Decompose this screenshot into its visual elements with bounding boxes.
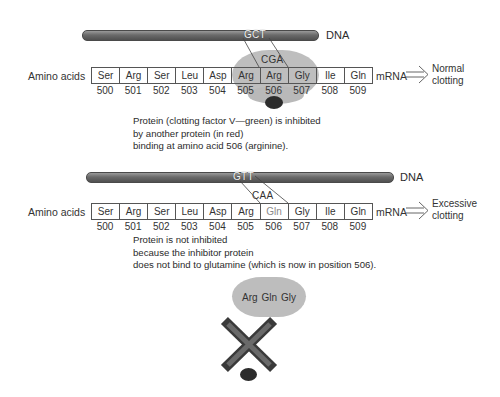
codon-connector-line — [240, 181, 260, 203]
diagram-line-art — [0, 0, 500, 397]
cross-mark-icon — [228, 324, 270, 365]
codon-connector-line — [243, 38, 259, 67]
arrow-right-icon — [406, 66, 428, 83]
codon-connector-line — [269, 38, 288, 67]
arrow-right-icon — [406, 202, 428, 219]
codon-connector-line — [255, 176, 288, 203]
